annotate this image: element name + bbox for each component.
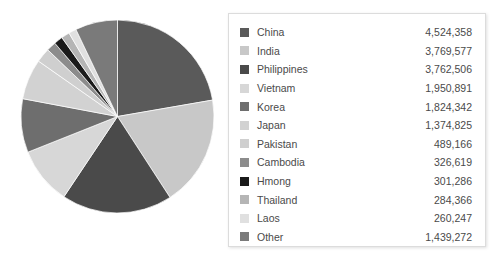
legend-item-label: Vietnam	[257, 82, 410, 94]
legend-item[interactable]: Japan1,374,825	[240, 116, 472, 135]
legend-color-swatch	[240, 46, 249, 55]
legend-item-value: 489,166	[410, 138, 472, 150]
legend-item-value: 326,619	[410, 156, 472, 168]
legend-item-label: Korea	[257, 101, 410, 113]
legend-item[interactable]: Pakistan489,166	[240, 135, 472, 154]
legend-color-swatch	[240, 65, 249, 74]
pie-chart	[20, 19, 215, 214]
legend-color-swatch	[240, 139, 249, 148]
legend-item[interactable]: Laos260,247	[240, 209, 472, 228]
legend-color-swatch	[240, 102, 249, 111]
legend-color-swatch	[240, 177, 249, 186]
legend-color-swatch	[240, 232, 249, 241]
legend-panel: China4,524,358India3,769,577Philippines3…	[228, 13, 486, 247]
legend-color-swatch	[240, 121, 249, 130]
legend-item-label: Other	[257, 231, 410, 243]
legend-color-swatch	[240, 84, 249, 93]
legend-item-label: Pakistan	[257, 138, 410, 150]
legend-color-swatch	[240, 28, 249, 37]
legend-item[interactable]: Philippines3,762,506	[240, 60, 472, 79]
legend-item-value: 301,286	[410, 175, 472, 187]
legend-color-swatch	[240, 214, 249, 223]
pie-slice-group	[21, 20, 214, 213]
legend-item-value: 260,247	[410, 212, 472, 224]
legend-color-swatch	[240, 195, 249, 204]
legend-item-label: Philippines	[257, 63, 410, 75]
legend-item-value: 3,762,506	[410, 63, 472, 75]
legend-item[interactable]: China4,524,358	[240, 23, 472, 42]
legend-item[interactable]: India3,769,577	[240, 42, 472, 61]
legend-item[interactable]: Cambodia326,619	[240, 153, 472, 172]
legend-item-value: 4,524,358	[410, 26, 472, 38]
legend-item-label: Hmong	[257, 175, 410, 187]
legend-item[interactable]: Vietnam1,950,891	[240, 79, 472, 98]
legend-item-value: 1,824,342	[410, 101, 472, 113]
legend-item-value: 3,769,577	[410, 45, 472, 57]
legend-item-label: Japan	[257, 119, 410, 131]
legend-item-label: India	[257, 45, 410, 57]
legend-color-swatch	[240, 158, 249, 167]
legend-item[interactable]: Thailand284,366	[240, 190, 472, 209]
legend-item-label: Cambodia	[257, 156, 410, 168]
pie-slice[interactable]	[118, 20, 213, 117]
legend-item[interactable]: Other1,439,272	[240, 228, 472, 247]
legend-list: China4,524,358India3,769,577Philippines3…	[240, 23, 472, 246]
legend-item-value: 1,374,825	[410, 119, 472, 131]
legend-item[interactable]: Korea1,824,342	[240, 97, 472, 116]
legend-item-label: Laos	[257, 212, 410, 224]
legend-item-value: 1,439,272	[410, 231, 472, 243]
legend-item[interactable]: Hmong301,286	[240, 172, 472, 191]
legend-item-label: China	[257, 26, 410, 38]
legend-item-value: 284,366	[410, 194, 472, 206]
pie-chart-area	[0, 0, 230, 272]
legend-item-label: Thailand	[257, 194, 410, 206]
legend-item-value: 1,950,891	[410, 82, 472, 94]
